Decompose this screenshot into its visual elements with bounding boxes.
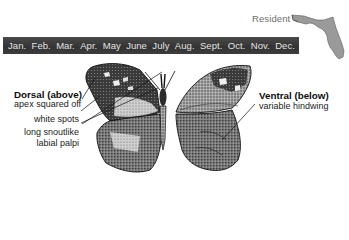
dorsal-note-palpi: labial palpi [6,138,79,148]
ventral-forewing [176,65,251,112]
dorsal-note-apex: apex squared off [6,99,81,109]
dorsal-hindwing [97,114,162,172]
dorsal-note-white-spots: white spots [6,114,79,124]
ventral-title: Ventral (below) [259,90,329,101]
ventral-hindwing [176,110,240,171]
dorsal-note-snout: long snoutlike [6,127,79,137]
ventral-note-hindwing: variable hindwing [259,101,329,111]
